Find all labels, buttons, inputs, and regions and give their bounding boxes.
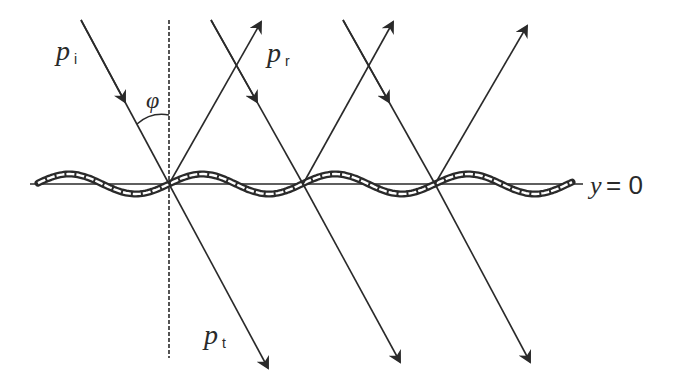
svg-text:p: p — [265, 37, 281, 68]
svg-text:= 0: = 0 — [606, 170, 643, 200]
ray-set-3 — [343, 20, 530, 362]
incident-arrow-seg — [81, 20, 125, 102]
label-reflected: p r — [265, 37, 290, 69]
diagram-canvas: φ p i p r p t y = 0 — [0, 0, 682, 383]
label-incident: p i — [54, 35, 77, 67]
svg-text:i: i — [74, 51, 77, 67]
label-surface-equation: y = 0 — [587, 170, 643, 200]
label-transmitted: p t — [202, 319, 226, 351]
svg-text:p: p — [54, 35, 70, 66]
angle-arc — [137, 114, 169, 124]
svg-text:t: t — [222, 335, 226, 351]
svg-text:p: p — [202, 319, 218, 350]
reflected-ray — [169, 22, 261, 184]
label-angle: φ — [146, 87, 159, 113]
transmitted-ray — [169, 184, 268, 368]
svg-text:r: r — [285, 53, 290, 69]
svg-text:y: y — [587, 171, 602, 200]
